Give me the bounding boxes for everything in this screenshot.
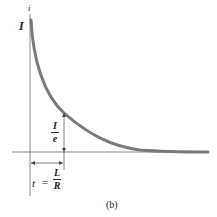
panel-label: (b) — [106, 200, 118, 210]
time-numerator: L — [54, 168, 60, 178]
decay-denominator: e — [53, 134, 57, 144]
decay-fraction-label: I e — [51, 121, 59, 144]
time-label-lhs: t — [32, 178, 35, 189]
time-fraction-label: L R — [53, 168, 61, 191]
dimension-arrow-right-icon — [59, 161, 63, 165]
decay-numerator: I — [53, 121, 57, 131]
dimension-arrow-left-icon — [31, 161, 35, 165]
time-label-eq: = — [42, 177, 48, 188]
y-axis-variable: i — [28, 4, 31, 13]
y-axis-label: I — [19, 20, 24, 32]
time-denominator: R — [54, 181, 61, 191]
